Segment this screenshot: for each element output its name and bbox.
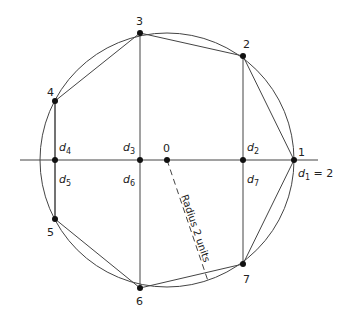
foot-point-d2 — [240, 157, 246, 163]
label-d5: d5 — [59, 173, 71, 188]
label-point-3: 3 — [136, 15, 143, 28]
label-point-7: 7 — [243, 273, 250, 286]
center-point — [164, 157, 170, 163]
point-7 — [240, 261, 246, 267]
label-d4: d4 — [59, 141, 71, 156]
point-3 — [137, 30, 143, 36]
label-point-1: 1 — [298, 146, 305, 159]
label-d2: d2 — [247, 141, 259, 156]
point-1 — [291, 157, 297, 163]
heptagon-diagram: Radius 2 units 1 2 3 4 5 6 7 0 d1 = 2 d2… — [0, 0, 344, 316]
point-6 — [137, 285, 143, 291]
label-d3: d3 — [123, 141, 135, 156]
label-point-6: 6 — [136, 295, 143, 308]
label-point-5: 5 — [47, 226, 54, 239]
point-2 — [240, 53, 246, 59]
radius-label: Radius 2 units — [179, 193, 212, 264]
label-point-4: 4 — [47, 86, 54, 99]
label-d6: d6 — [123, 173, 135, 188]
label-point-2: 2 — [243, 38, 250, 51]
foot-point-d4 — [52, 157, 58, 163]
label-d7: d7 — [247, 173, 259, 188]
label-d1: d1 = 2 — [298, 167, 333, 182]
point-5 — [52, 216, 58, 222]
foot-point-d3 — [137, 157, 143, 163]
label-center: 0 — [163, 142, 170, 155]
